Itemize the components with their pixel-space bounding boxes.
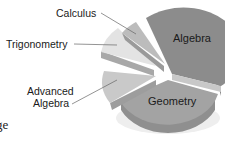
clipped-page-text: ge (0, 117, 8, 133)
pie-chart (0, 0, 225, 147)
label-advanced-algebra-line2: Algebra (33, 98, 69, 109)
label-trigonometry: Trigonometry (6, 39, 67, 50)
label-algebra: Algebra (173, 32, 211, 44)
slice-algebra (146, 8, 225, 86)
label-geometry: Geometry (148, 95, 196, 107)
label-advanced-algebra-line1: Advanced (27, 86, 74, 97)
label-calculus: Calculus (56, 8, 96, 19)
